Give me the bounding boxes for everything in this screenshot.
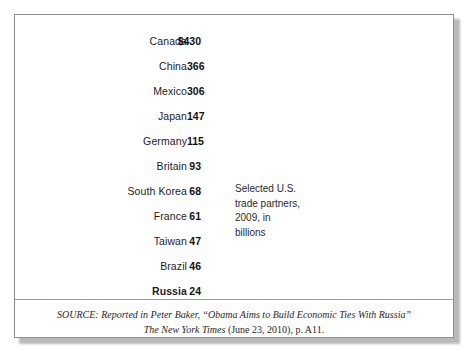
bar-value-label: 46	[187, 255, 201, 277]
bar-value-label: 47	[187, 230, 201, 252]
source-divider	[15, 299, 453, 300]
bar-category-label: France	[15, 205, 187, 227]
chart-row: China 366	[15, 55, 455, 77]
figure-container: Canada $430 China 366 Mexico 306 Japan 1…	[0, 0, 473, 358]
chart-row: Mexico 306	[15, 80, 455, 102]
chart-row: Brazil 46	[15, 255, 455, 277]
source-line-2: The New York Times (June 23, 2010), p. A…	[15, 322, 453, 337]
bar-value-label: 93	[187, 155, 201, 177]
bar-category-label: Canada	[15, 30, 187, 52]
annotation-line-4: billions	[235, 226, 355, 241]
chart-row: Japan 147	[15, 105, 455, 127]
bar-value-label: 306	[187, 80, 201, 102]
source-note: SOURCE: Reported in Peter Baker, “Obama …	[15, 307, 453, 337]
chart-frame: Canada $430 China 366 Mexico 306 Japan 1…	[14, 14, 454, 338]
bar-value-label: 366	[187, 55, 201, 77]
chart-row: Britain 93	[15, 155, 455, 177]
bar-category-label: Brazil	[15, 255, 187, 277]
bar-value-label: $430	[175, 30, 201, 52]
bar-value-label: 68	[187, 180, 201, 202]
chart-row: Germany 115	[15, 130, 455, 152]
chart-row: Canada $430	[15, 30, 455, 52]
bar-category-label: Germany	[15, 130, 187, 152]
annotation-line-2: trade partners,	[235, 197, 355, 212]
source-line-1: SOURCE: Reported in Peter Baker, “Obama …	[15, 307, 453, 322]
bar-chart-plot: Canada $430 China 366 Mexico 306 Japan 1…	[15, 15, 455, 287]
chart-annotation: Selected U.S. trade partners, 2009, in b…	[235, 182, 355, 240]
annotation-line-3: 2009, in	[235, 211, 355, 226]
publication-name: The New York Times	[144, 324, 226, 335]
bar-category-label: China	[15, 55, 187, 77]
bar-value-label: 115	[187, 130, 201, 152]
publication-details: (June 23, 2010), p. A11.	[225, 324, 324, 335]
bar-category-label: Taiwan	[15, 230, 187, 252]
bar-category-label: Britain	[15, 155, 187, 177]
bar-value-label: 147	[187, 105, 201, 127]
annotation-line-1: Selected U.S.	[235, 182, 355, 197]
bar-category-label: Japan	[15, 105, 187, 127]
bar-category-label: Mexico	[15, 80, 187, 102]
bar-value-label: 61	[187, 205, 201, 227]
bar-category-label: South Korea	[15, 180, 187, 202]
